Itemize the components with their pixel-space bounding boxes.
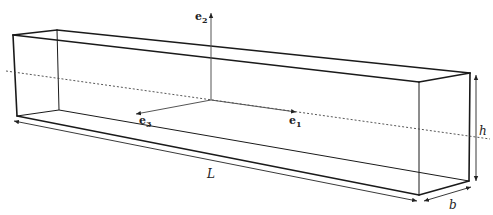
top-right-cross-edge <box>419 73 470 82</box>
back-left-vertical-edge <box>57 30 59 110</box>
front-left-vertical-edge <box>13 35 17 116</box>
bottom-left-cross-edge <box>17 110 59 116</box>
length-label: L <box>206 167 215 181</box>
beam-diagram: e2 e1 e3 L h b <box>0 0 493 215</box>
e1-axis-arrow <box>211 100 296 112</box>
e2-label: e2 <box>195 10 208 25</box>
top-back-edge <box>57 30 470 73</box>
beam-visible-edges <box>13 30 470 195</box>
e1-label: e1 <box>289 114 302 129</box>
basis-vectors <box>136 13 296 114</box>
back-right-vertical-edge <box>469 73 470 181</box>
bottom-right-cross-edge <box>419 181 469 195</box>
width-label: b <box>449 198 457 212</box>
top-front-edge <box>13 35 419 82</box>
length-dimension-arrow <box>14 121 417 201</box>
bottom-front-edge <box>17 116 419 195</box>
height-label: h <box>479 124 487 138</box>
e3-axis-arrow <box>136 100 211 114</box>
e3-label: e3 <box>139 114 152 129</box>
width-dimension-arrow <box>424 187 471 201</box>
beam-back-edges <box>17 30 469 181</box>
top-left-cross-edge <box>13 30 57 35</box>
